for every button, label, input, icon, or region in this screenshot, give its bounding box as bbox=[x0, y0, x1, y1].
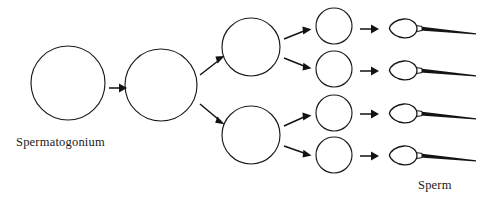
diagram-canvas: Spermatogonium Sperm bbox=[0, 0, 496, 202]
arrow-secondary-upper-to-spermatid-1 bbox=[284, 27, 312, 39]
cell-secondary-spermatocyte-lower bbox=[222, 106, 280, 164]
sperm-tail-4 bbox=[420, 153, 476, 161]
cell-sperm-3 bbox=[389, 104, 476, 123]
cell-spermatogonium bbox=[31, 46, 105, 120]
cell-sperm-2 bbox=[389, 61, 476, 80]
spermatogenesis-diagram: Spermatogonium Sperm bbox=[0, 0, 496, 202]
sperm-head-4 bbox=[389, 146, 417, 165]
stage-spermatid bbox=[316, 8, 352, 173]
arrow-spermatid-3-to-sperm-3 bbox=[360, 110, 379, 119]
cell-spermatid-1 bbox=[316, 8, 352, 44]
stage-secondary-spermatocyte bbox=[222, 18, 280, 164]
arrow-primary-to-secondary-lower bbox=[200, 104, 225, 124]
stage-spermatogonium bbox=[31, 46, 105, 120]
arrow-spermatogonium-to-primary bbox=[109, 84, 127, 93]
arrow-spermatid-2-to-sperm-2 bbox=[360, 67, 379, 76]
cell-secondary-spermatocyte-upper bbox=[222, 18, 280, 76]
sperm-tail-3 bbox=[420, 111, 476, 119]
label-spermatogonium: Spermatogonium bbox=[16, 135, 105, 149]
cell-spermatid-2 bbox=[316, 51, 352, 87]
cell-spermatid-3 bbox=[316, 95, 352, 131]
cell-sperm-1 bbox=[389, 19, 476, 38]
cell-primary-spermatocyte bbox=[125, 49, 197, 121]
sperm-head-1 bbox=[389, 19, 417, 38]
arrow-spermatid-1-to-sperm-1 bbox=[360, 25, 379, 34]
label-sperm: Sperm bbox=[418, 178, 452, 192]
arrow-spermatid-4-to-sperm-4 bbox=[360, 152, 379, 161]
sperm-tail-2 bbox=[420, 68, 476, 76]
arrow-secondary-lower-to-spermatid-4 bbox=[284, 146, 312, 158]
arrow-secondary-lower-to-spermatid-3 bbox=[284, 113, 312, 126]
stage-sperm bbox=[389, 19, 476, 165]
sperm-head-2 bbox=[389, 61, 417, 80]
cell-spermatid-4 bbox=[316, 137, 352, 173]
sperm-head-3 bbox=[389, 104, 417, 123]
arrow-secondary-upper-to-spermatid-2 bbox=[284, 58, 312, 70]
sperm-tail-1 bbox=[420, 26, 476, 34]
arrow-primary-to-secondary-upper bbox=[200, 56, 225, 75]
cell-sperm-4 bbox=[389, 146, 476, 165]
stage-primary-spermatocyte bbox=[125, 49, 197, 121]
